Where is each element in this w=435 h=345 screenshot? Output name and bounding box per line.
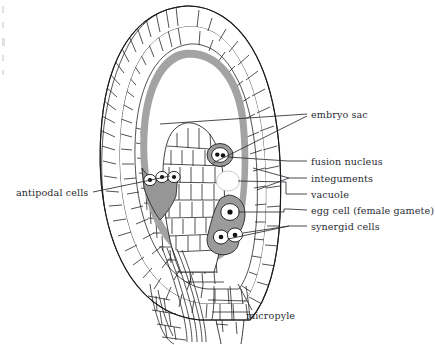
label-vacuole: vacuole [311, 190, 349, 200]
label-micropyle: micropyle [246, 311, 295, 321]
synergid-cell [213, 230, 228, 244]
label-antipodal-cells: antipodal cells [16, 188, 88, 198]
label-integuments: integuments [311, 174, 373, 184]
label-synergid-cells: synergid cells [311, 222, 380, 232]
egg-cell [221, 204, 239, 221]
label-embryo-sac: embryo sac [311, 110, 368, 120]
synergid-cell [227, 228, 242, 242]
leader-egg-cell [288, 209, 307, 210]
vacuole [217, 171, 240, 191]
label-egg-cell: egg cell (female gamete) [311, 206, 434, 216]
scan-artifacts [2, 6, 5, 75]
antipodal-cell [168, 171, 180, 182]
label-fusion-nucleus: fusion nucleus [311, 157, 383, 167]
ovule-body [100, 6, 281, 344]
